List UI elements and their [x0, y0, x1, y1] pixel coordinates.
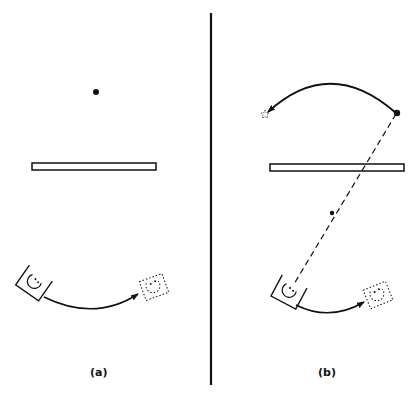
motion-arrow [44, 294, 138, 309]
panel-label-b: (b) [318, 366, 336, 379]
object-dotted-copy [363, 281, 393, 309]
mirror-bar [270, 164, 404, 171]
object-solid [271, 275, 307, 309]
panel-b [261, 84, 404, 313]
bottom-motion-arrow [296, 302, 364, 313]
sight-line-dashed [294, 114, 396, 284]
top-motion-arrow [268, 84, 396, 113]
object-dotted-copy [139, 273, 168, 300]
object-solid [16, 265, 53, 301]
diagram-canvas [0, 0, 414, 398]
midpoint-dot [330, 211, 334, 215]
panel-label-a: (a) [90, 366, 107, 379]
panel-a [16, 89, 169, 309]
point-source-dot [93, 89, 99, 95]
mirror-bar [32, 163, 156, 170]
